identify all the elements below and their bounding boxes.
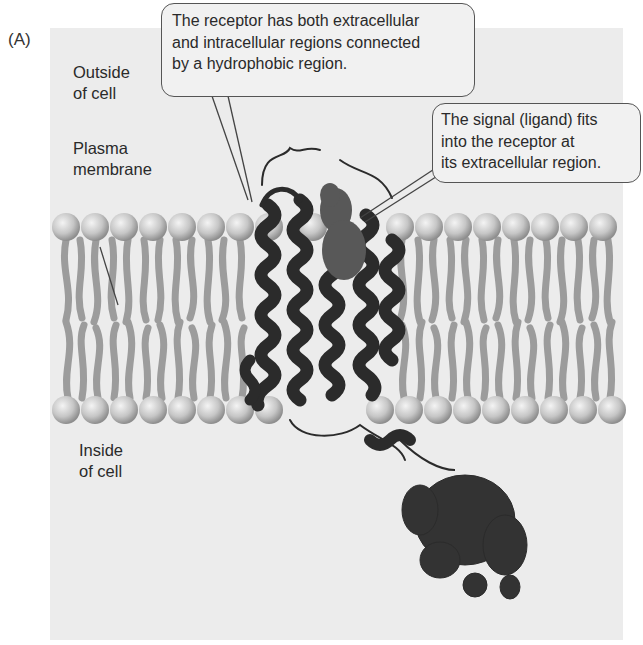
- leader-lines: [100, 96, 450, 305]
- ligand: [320, 183, 366, 280]
- plasma-membrane-label: Plasma membrane: [73, 138, 152, 180]
- intracellular-domain: [400, 440, 527, 599]
- callout-receptor-regions: The receptor has both extracellular and …: [161, 3, 475, 97]
- inside-of-cell-label: Inside of cell: [79, 440, 123, 482]
- inner-leaflet-heads: [52, 396, 626, 424]
- outside-of-cell-label: Outside of cell: [73, 62, 130, 104]
- callout-ligand-binding: The signal (ligand) fits into the recept…: [432, 103, 641, 183]
